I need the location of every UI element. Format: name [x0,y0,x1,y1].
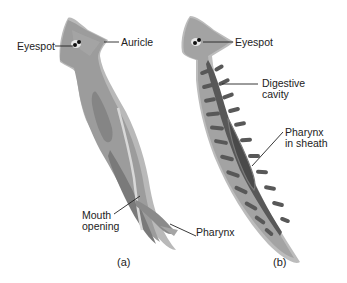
panel-a-planarian [59,18,178,250]
label-pharynx-b-line2: in sheath [285,137,328,149]
label-digestive-line2: cavity [262,88,290,100]
label-eyespot-a: Eyespot [17,40,55,52]
caption-b: (b) [273,256,286,268]
eyespot-icon [193,41,197,45]
leader-pharynx-b [252,132,283,166]
planarian-diagram: Eyespot Auricle Mouth opening Pharynx (a… [0,0,347,283]
planarian-b-eyespots [191,38,201,46]
label-mouth-line2: opening [82,220,120,232]
label-eyespot-b: Eyespot [235,36,273,48]
planarian-a-eyespots [71,40,81,48]
eyespot-icon [197,38,201,42]
eyespot-icon [73,43,77,47]
label-pharynx-a: Pharynx [196,226,235,238]
label-auricle: Auricle [121,36,153,48]
eyespot-icon [77,40,81,44]
caption-a: (a) [117,256,130,268]
